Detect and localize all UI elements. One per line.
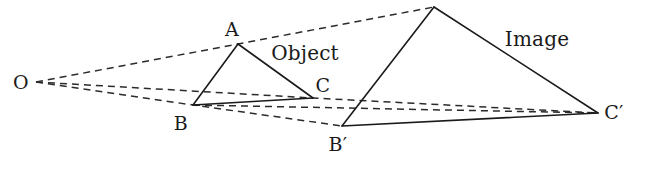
label-point-b: B (174, 114, 188, 133)
object-edge-a-b (193, 44, 238, 105)
image-edge-bprime-cprime (342, 113, 598, 126)
label-point-c: C (316, 76, 331, 95)
projection-ray-o-b-bprime (36, 82, 342, 126)
label-object-region: Object (271, 43, 339, 63)
label-point-c-prime: C′ (604, 103, 623, 122)
projection-diagram: O A B C B′ C′ Object Image (0, 0, 647, 175)
label-point-o: O (13, 73, 29, 92)
correspondence-lines-group (193, 105, 598, 113)
image-edge-aprime-cprime (434, 7, 598, 113)
label-point-b-prime: B′ (329, 135, 348, 154)
image-triangle-group (342, 7, 598, 126)
object-edge-b-c (193, 98, 313, 105)
label-image-region: Image (505, 29, 569, 49)
dashed-edge-b-cprime (193, 105, 598, 113)
label-point-a: A (225, 20, 239, 39)
